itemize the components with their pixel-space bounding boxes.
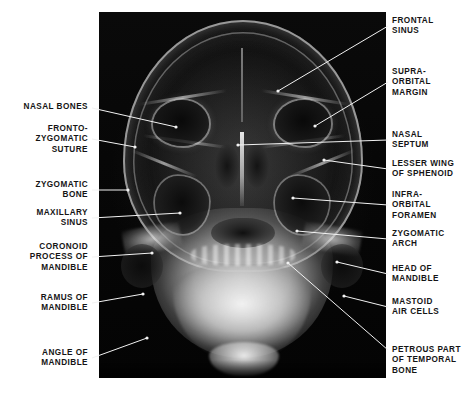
label-fronto-zygomatic-suture: FRONTO- ZYGOMATIC SUTURE [35,124,88,155]
label-maxillary-sinus: MAXILLARY SINUS [36,208,88,229]
label-head-of-mandible: HEAD OF MANDIBLE [392,264,439,285]
crista-galli-midline [241,48,243,122]
label-petrous-part-of-temporal-bone: PETROUS PART OF TEMPORAL BONE [392,345,461,376]
label-nasal-septum: NASAL SEPTUM [392,130,429,151]
label-nasal-bones: NASAL BONES [24,102,88,112]
label-mastoid-air-cells: MASTOID AIR CELLS [392,297,439,318]
label-zygomatic-arch: ZYGOMATIC ARCH [392,229,445,250]
label-coronoid-process-of-mandible: CORONOID PROCESS OF MANDIBLE [30,242,88,273]
orbit-right [275,100,331,146]
label-frontal-sinus: FRONTAL SINUS [392,16,434,37]
mastoid-air-cells-right [321,244,363,288]
label-ramus-of-mandible: RAMUS OF MANDIBLE [41,293,88,314]
figure-page: NASAL BONESFRONTO- ZYGOMATIC SUTUREZYGOM… [0,0,470,394]
nasal-cavity-left [215,144,239,188]
label-angle-of-mandible: ANGLE OF MANDIBLE [41,348,88,369]
skull-radiograph-image [99,12,386,378]
maxillary-teeth-row [191,244,295,266]
label-infra-orbital-foramen: INFRA- ORBITAL FORAMEN [392,190,437,221]
nasal-septum [240,132,244,206]
label-lesser-wing-of-sphenoid: LESSER WING OF SPHENOID [392,159,454,180]
label-supra-orbital-margin: SUPRA- ORBITAL MARGIN [392,67,431,98]
nasal-cavity-right [245,144,269,188]
orbit-left [153,100,209,146]
film-bottom-edge [99,360,386,378]
label-zygomatic-bone: ZYGOMATIC BONE [35,180,88,201]
mastoid-air-cells-left [121,244,163,288]
